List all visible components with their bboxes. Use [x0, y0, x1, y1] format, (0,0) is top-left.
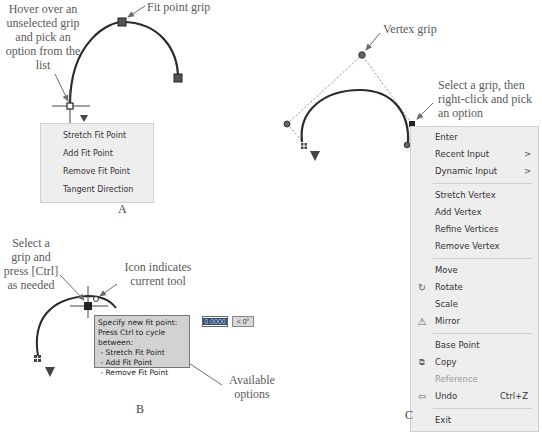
dynamic-input-value[interactable]: 0.0000: [202, 316, 228, 327]
vertex-grip-left[interactable]: [284, 121, 290, 127]
menu-item-stretch-vertex[interactable]: Stretch Vertex: [411, 187, 538, 204]
start-grip-c[interactable]: [301, 143, 307, 149]
menu-item-label: Move: [435, 265, 458, 275]
menu-separator: [433, 333, 532, 334]
callout-icon-indicates: Icon indicates current tool: [118, 260, 198, 288]
menu-item-dynamic-input[interactable]: Dynamic Input>: [411, 163, 538, 180]
add-point-tool-icon: [94, 297, 99, 302]
undo-icon: ⇦: [415, 388, 429, 405]
menu-item-mirror[interactable]: ⚠Mirror: [411, 313, 538, 330]
menu-item-label: Base Point: [435, 340, 480, 350]
panel-label-c: C: [405, 408, 413, 423]
submenu-arrow-icon: >: [524, 163, 531, 180]
tooltip-option: - Remove Fit Point: [98, 368, 186, 378]
menu-item-reference: Reference: [411, 371, 538, 388]
menu-item-label: Dynamic Input: [435, 166, 497, 176]
callout-hover-grip: Hover over an unselected grip and pick a…: [2, 2, 84, 72]
menu-separator: [433, 408, 532, 409]
callout-select-grip-right-click: Select a grip, then right-click and pick…: [438, 78, 542, 120]
menu-item-enter[interactable]: Enter: [411, 129, 538, 146]
menu-item-label: Reference: [435, 374, 478, 384]
copy-icon: ⧉: [415, 354, 429, 371]
menu-item-base-point[interactable]: Base Point: [411, 337, 538, 354]
menu-item-label: Tangent Direction: [63, 185, 133, 194]
callout-vertex-grip: Vertex grip: [383, 22, 463, 36]
menu-item-rotate[interactable]: ↻Rotate: [411, 279, 538, 296]
menu-item-label: Rotate: [435, 282, 463, 292]
menu-item-label: Stretch Fit Point: [63, 131, 126, 140]
grip-menu-triangle-icon[interactable]: [310, 151, 320, 161]
panel-label-b: B: [136, 402, 144, 417]
menu-item-label: Recent Input: [435, 149, 489, 159]
dynamic-input-text: 0.0000: [203, 318, 226, 325]
tooltip-option: - Stretch Fit Point: [98, 348, 186, 358]
menu-item-label: Scale: [435, 299, 458, 309]
context-menu: Enter Recent Input> Dynamic Input> Stret…: [410, 126, 539, 432]
menu-item-refine-vertices[interactable]: Refine Vertices: [411, 221, 538, 238]
menu-item-remove-vertex[interactable]: Remove Vertex: [411, 238, 538, 255]
menu-item-label: Enter: [435, 132, 458, 142]
submenu-arrow-icon: >: [524, 146, 531, 163]
menu-item-label: Stretch Vertex: [435, 190, 496, 200]
tooltip-option: - Add Fit Point: [98, 358, 186, 368]
shortcut-label: Ctrl+Z: [500, 388, 528, 405]
callout-fit-point-grip: Fit point grip: [147, 0, 237, 14]
menu-separator: [433, 258, 532, 259]
grip-menu-triangle-icon[interactable]: [45, 367, 55, 377]
menu-item-add-fit-point[interactable]: Add Fit Point: [41, 145, 153, 163]
mirror-icon: ⚠: [415, 313, 429, 330]
callout-available-options: Available options: [222, 373, 282, 401]
selected-grip[interactable]: [84, 302, 92, 310]
menu-item-label: Exit: [435, 415, 451, 425]
menu-item-label: Remove Vertex: [435, 241, 500, 251]
tooltip-line: Press Ctrl to cycle between:: [98, 328, 186, 348]
menu-item-label: Remove Fit Point: [63, 167, 130, 176]
tooltip-line: Specify new fit point:: [98, 318, 186, 328]
menu-item-scale[interactable]: Scale: [411, 296, 538, 313]
end-grip[interactable]: [404, 142, 410, 148]
menu-item-undo[interactable]: ⇦UndoCtrl+Z: [411, 388, 538, 405]
grip-menu-triangle-icon[interactable]: [80, 115, 88, 122]
vertex-grip[interactable]: [359, 52, 365, 58]
rotate-icon: ↻: [415, 279, 429, 296]
grip-tooltip: Specify new fit point: Press Ctrl to cyc…: [94, 315, 190, 368]
menu-item-label: Add Vertex: [435, 207, 481, 217]
menu-item-label: Mirror: [435, 316, 460, 326]
menu-item-move[interactable]: Move: [411, 262, 538, 279]
dynamic-input-angle[interactable]: < 0°: [232, 316, 254, 327]
menu-item-recent-input[interactable]: Recent Input>: [411, 146, 538, 163]
menu-item-stretch-fit-point[interactable]: Stretch Fit Point: [41, 127, 153, 145]
menu-item-exit[interactable]: Exit: [411, 412, 538, 429]
panel-label-a: A: [118, 202, 127, 217]
menu-item-label: Refine Vertices: [435, 224, 498, 234]
fit-grip-hover[interactable]: [67, 103, 73, 109]
menu-item-copy[interactable]: ⧉Copy: [411, 354, 538, 371]
menu-item-label: Undo: [435, 391, 457, 401]
menu-item-tangent-direction[interactable]: Tangent Direction: [41, 181, 153, 199]
menu-item-add-vertex[interactable]: Add Vertex: [411, 204, 538, 221]
menu-separator: [433, 183, 532, 184]
callout-select-grip-ctrl: Select a grip and press [Ctrl] as needed: [2, 236, 60, 292]
menu-item-label: Add Fit Point: [63, 149, 113, 158]
menu-item-remove-fit-point[interactable]: Remove Fit Point: [41, 163, 153, 181]
fit-grip-end[interactable]: [174, 74, 182, 82]
menu-item-label: Copy: [435, 357, 457, 367]
fit-point-grip[interactable]: [118, 18, 126, 26]
grip-multifunction-menu: Stretch Fit Point Add Fit Point Remove F…: [40, 123, 154, 203]
